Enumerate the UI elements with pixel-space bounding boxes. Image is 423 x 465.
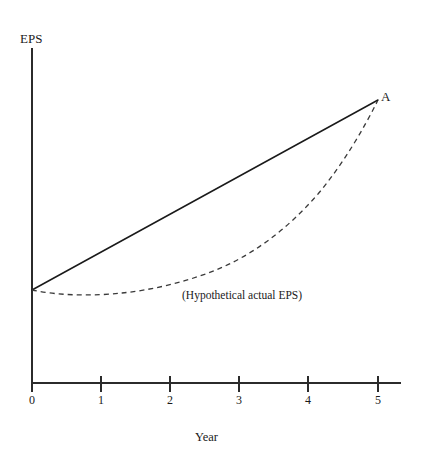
x-tick-label-4: 4 [296, 394, 320, 406]
x-axis-label: Year [195, 431, 218, 444]
x-tick-label-5: 5 [366, 394, 390, 406]
x-tick-label-1: 1 [89, 394, 113, 406]
x-tick-label-2: 2 [158, 394, 182, 406]
series-hypothetical-actual-eps-curve [32, 101, 378, 295]
eps-projection-chart: EPS A (Hypothetical actual EPS) 0 1 2 3 … [0, 0, 423, 465]
y-axis-label: EPS [20, 32, 42, 45]
point-a-label: A [381, 90, 390, 103]
hypothetical-actual-eps-annotation: (Hypothetical actual EPS) [182, 290, 302, 302]
x-tick-label-3: 3 [227, 394, 251, 406]
series-projected-eps-line [32, 100, 378, 290]
x-tick-label-0: 0 [20, 394, 44, 406]
chart-plot-area [0, 0, 423, 465]
